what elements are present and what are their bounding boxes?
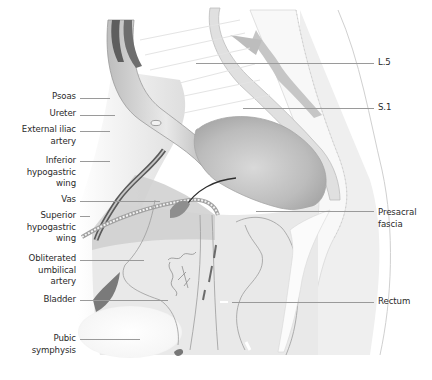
leader-line-l5 [196, 63, 374, 64]
label-s1: S.1 [378, 102, 391, 114]
leader-line-bladder [80, 300, 168, 301]
label-psoas: Psoas [52, 91, 76, 103]
leader-line-vas [80, 201, 160, 202]
label-obliterated-umbilical-artery: Obliterated umbilical artery [29, 253, 76, 288]
label-ureter: Ureter [49, 108, 76, 120]
label-superior-hypogastric-wing: Superior hypogastric wing [27, 210, 76, 245]
label-rectum: Rectum [378, 296, 410, 308]
label-external-iliac-artery: External iliac artery [22, 124, 76, 147]
label-inferior-hypogastric-wing: Inferior hypogastric wing [27, 155, 76, 190]
leader-line-ureter [80, 115, 115, 116]
leader-line-external-iliac-artery [80, 131, 110, 132]
label-bladder: Bladder [43, 294, 76, 306]
leader-line-obliterated-umbilical-artery [80, 260, 144, 261]
leader-line-presacral-fascia [256, 211, 374, 212]
label-presacral-fascia: Presacral fascia [378, 207, 416, 230]
pubic-symphysis-bone [78, 306, 182, 358]
label-l5: L.5 [378, 57, 391, 69]
leader-line-psoas [80, 98, 110, 99]
label-pubic-symphysis: Pubic symphysis [32, 333, 76, 356]
label-vas: Vas [61, 194, 76, 206]
leader-line-pubic-symphysis [80, 339, 140, 340]
pelvis-illustration [0, 0, 432, 380]
leader-line-s1 [243, 108, 374, 109]
leader-line-superior-hypogastric-wing [80, 216, 90, 217]
anatomical-diagram: Psoas Ureter External iliac artery Infer… [0, 0, 432, 380]
leader-line-inferior-hypogastric-wing [80, 161, 110, 162]
leader-line-rectum [232, 302, 374, 303]
